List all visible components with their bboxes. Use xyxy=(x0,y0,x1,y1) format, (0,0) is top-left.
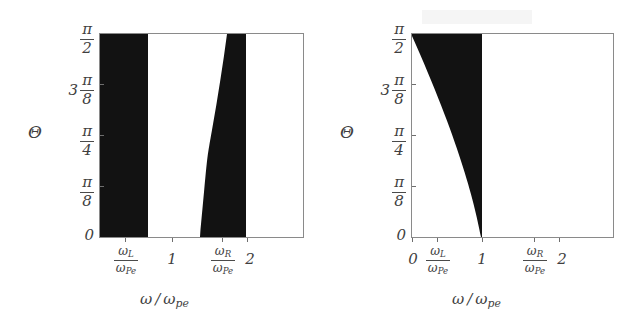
coef-fraction-group: 3 π 8 xyxy=(36,73,94,108)
subscript-pe: pe xyxy=(176,297,189,310)
fraction-denominator: ωPe xyxy=(211,261,235,276)
fraction-pi-2: π 2 xyxy=(80,22,94,57)
fraction-pi-8: π 8 xyxy=(80,73,94,108)
left-ytick-label-3pi-over-8: 3 π 8 xyxy=(36,73,94,108)
fraction-denominator: ωPe xyxy=(426,261,450,276)
scan-artifact xyxy=(422,10,532,24)
subscript-Pe: Pe xyxy=(223,266,234,276)
left-ytick-label-pi-over-4: π 4 xyxy=(48,124,94,159)
left-ytick-label-zero: 0 xyxy=(60,228,94,243)
subscript-L: L xyxy=(128,249,134,259)
right-xtick-label-wr: ωR ωPe xyxy=(513,245,557,276)
fraction-denominator: ωPe xyxy=(523,261,547,276)
left-ytick-label-pi-over-8: π 8 xyxy=(48,175,94,210)
left-band-region xyxy=(100,34,148,237)
fraction-numerator: ωL xyxy=(426,245,450,261)
right-xtick-mark-wr xyxy=(534,238,535,242)
subscript-pe: pe xyxy=(488,297,501,310)
left-shaded-regions xyxy=(100,34,303,237)
fraction-numerator: π xyxy=(392,124,406,142)
left-ytick-mark-pi4 xyxy=(100,135,104,136)
right-plot-area xyxy=(411,33,614,238)
coef-fraction-group: 3 π 8 xyxy=(348,73,406,108)
fraction-pi-8: π 8 xyxy=(392,175,406,210)
left-ytick-mark-3pi8 xyxy=(100,84,104,85)
right-xtick-mark-2 xyxy=(559,238,560,242)
subscript-R: R xyxy=(537,249,544,259)
right-ytick-label-pi-over-2: π 2 xyxy=(360,22,406,57)
subscript-Pe: Pe xyxy=(126,266,137,276)
left-y-axis-title: Θ xyxy=(28,122,42,142)
fraction-denominator: 8 xyxy=(80,193,94,210)
left-xtick-label-wr: ωR ωPe xyxy=(201,245,245,276)
right-xtick-mark-1 xyxy=(482,238,483,242)
fraction-denominator: 2 xyxy=(80,40,94,57)
fraction-wr-wpe: ωR ωPe xyxy=(211,245,235,276)
left-xtick-mark-1 xyxy=(172,238,173,242)
fraction-pi-8: π 8 xyxy=(80,175,94,210)
fraction-numerator: π xyxy=(80,22,94,40)
right-band-region xyxy=(200,34,246,237)
x-axis-title-text: ω / ωpe xyxy=(140,290,189,308)
right-ytick-label-zero: 0 xyxy=(372,228,406,243)
subscript-Pe: Pe xyxy=(535,266,546,276)
right-xtick-mark-0 xyxy=(412,238,413,242)
fraction-denominator: 8 xyxy=(392,91,406,108)
left-xtick-mark-wl xyxy=(125,238,126,242)
right-ytick-mark-pi4 xyxy=(412,135,416,136)
right-ytick-mark-3pi8 xyxy=(412,84,416,85)
right-shaded-regions xyxy=(412,34,613,237)
fraction-numerator: π xyxy=(392,22,406,40)
fraction-denominator: 2 xyxy=(392,40,406,57)
subscript-R: R xyxy=(225,249,232,259)
left-panel: Θ π 2 3 π 8 π 4 π xyxy=(0,0,322,325)
fraction-wl-wpe: ωL ωPe xyxy=(426,245,450,276)
fraction-numerator: π xyxy=(392,73,406,91)
x-axis-title-text: ω / ωpe xyxy=(452,290,501,308)
right-xtick-label-1: 1 xyxy=(471,252,493,267)
right-ytick-mark-pi8 xyxy=(412,186,416,187)
right-ytick-label-3pi-over-8: 3 π 8 xyxy=(348,73,406,108)
left-plot-area xyxy=(99,33,304,238)
fraction-denominator: ωPe xyxy=(114,261,138,276)
fraction-wr-wpe: ωR ωPe xyxy=(523,245,547,276)
subscript-Pe: Pe xyxy=(438,266,449,276)
subscript-L: L xyxy=(440,249,446,259)
fraction-pi-4: π 4 xyxy=(392,124,406,159)
left-ytick-label-pi-over-2: π 2 xyxy=(48,22,94,57)
right-y-axis-title: Θ xyxy=(340,122,354,142)
left-x-axis-title: ω / ωpe xyxy=(140,290,189,310)
left-xtick-label-wl: ωL ωPe xyxy=(104,245,148,276)
left-ytick-mark-pi8 xyxy=(100,186,104,187)
right-panel: Θ π 2 3 π 8 π 4 π xyxy=(322,0,644,325)
fraction-denominator: 8 xyxy=(392,193,406,210)
fraction-wl-wpe: ωL ωPe xyxy=(114,245,138,276)
fraction-numerator: π xyxy=(80,175,94,193)
dispersion-figure: Θ π 2 3 π 8 π 4 π xyxy=(0,0,644,325)
fraction-denominator: 4 xyxy=(80,142,94,159)
fraction-numerator: π xyxy=(80,124,94,142)
right-xtick-label-2: 2 xyxy=(553,252,571,267)
fraction-pi-8: π 8 xyxy=(392,73,406,108)
right-x-axis-title: ω / ωpe xyxy=(452,290,501,310)
fraction-pi-4: π 4 xyxy=(80,124,94,159)
fraction-numerator: π xyxy=(80,73,94,91)
fraction-numerator: ωL xyxy=(114,245,138,261)
right-ytick-label-pi-over-8: π 8 xyxy=(360,175,406,210)
left-xtick-mark-2 xyxy=(247,238,248,242)
fraction-numerator: π xyxy=(392,175,406,193)
fraction-pi-2: π 2 xyxy=(392,22,406,57)
left-xtick-label-2: 2 xyxy=(241,252,259,267)
fraction-numerator: ωR xyxy=(523,245,547,261)
right-ytick-label-pi-over-4: π 4 xyxy=(360,124,406,159)
fraction-denominator: 4 xyxy=(392,142,406,159)
left-xtick-label-1: 1 xyxy=(160,252,184,267)
left-xtick-mark-wr xyxy=(222,238,223,242)
fraction-coefficient: 3 xyxy=(69,83,79,98)
fraction-coefficient: 3 xyxy=(381,83,391,98)
wedge-band-region xyxy=(412,34,482,237)
right-xtick-mark-wl xyxy=(437,238,438,242)
fraction-numerator: ωR xyxy=(211,245,235,261)
right-xtick-label-wl: ωL ωPe xyxy=(416,245,460,276)
fraction-denominator: 8 xyxy=(80,91,94,108)
